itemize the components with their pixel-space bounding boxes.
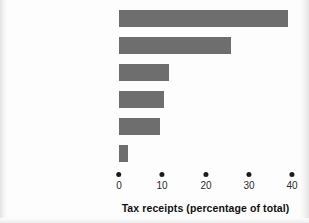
tick-dot-icon: [204, 172, 209, 177]
x-tick-label: 10: [156, 180, 167, 191]
x-axis: 0 10 20 30 40 Tax receipts (percentage o…: [0, 172, 309, 223]
x-tick: 30: [243, 172, 254, 191]
tick-dot-icon: [290, 172, 295, 177]
x-axis-title: Tax receipts (percentage of total): [119, 202, 292, 214]
x-tick: 20: [200, 172, 211, 191]
x-tick: 10: [156, 172, 167, 191]
tick-dot-icon: [117, 172, 122, 177]
bar-property-taxes: [119, 118, 160, 135]
bar-excise-taxes: [119, 145, 128, 162]
x-tick-label: 40: [286, 180, 297, 191]
tick-dot-icon: [160, 172, 165, 177]
tick-dot-icon: [247, 172, 252, 177]
bar-personal-income-taxes: [119, 10, 288, 27]
x-tick: 0: [116, 172, 122, 191]
x-tick-label: 30: [243, 180, 254, 191]
bar-corporation-income-taxes: [119, 64, 169, 81]
x-tick-label: 20: [200, 180, 211, 191]
x-tick-label: 0: [116, 180, 122, 191]
chart-figure: Personal income taxes Social Security ta…: [0, 0, 309, 223]
x-tick: 40: [286, 172, 297, 191]
bar-sales-taxes: [119, 91, 164, 108]
bar-social-security-taxes: [119, 37, 231, 54]
